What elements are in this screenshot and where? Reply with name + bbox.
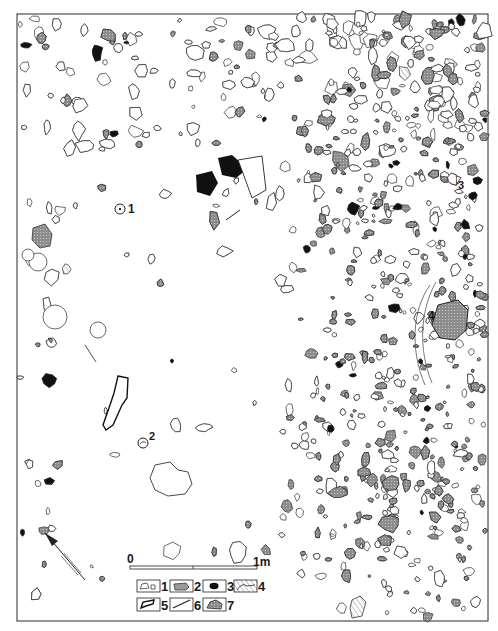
legend-item-6: 6 (170, 598, 201, 613)
grey-stone (372, 65, 380, 82)
label-2: 2 (149, 430, 155, 442)
black-stone (350, 374, 357, 377)
grey-stone (330, 248, 335, 254)
svg-text:1: 1 (161, 579, 168, 594)
outline-stone (286, 404, 293, 417)
grey-stone (353, 410, 356, 413)
outline-stone (383, 510, 388, 515)
grey-stone (310, 241, 316, 246)
grey-stone (433, 526, 437, 529)
legend-item-1: 1 (137, 579, 168, 594)
black-stone (419, 359, 423, 364)
outline-stone (462, 389, 467, 398)
grey-stone (404, 279, 409, 282)
outline-stone (297, 12, 307, 23)
outline-stone (404, 431, 407, 434)
grey-stone (478, 454, 486, 466)
legend-item-7: 7 (203, 598, 234, 613)
grey-stone (369, 358, 374, 363)
round-stone (90, 322, 106, 338)
outline-stone (403, 311, 406, 314)
outline-stone (360, 544, 363, 549)
outline-stone (323, 515, 327, 518)
site-plan: 1 2 3 4 0 1m 1 2 3 (0, 0, 498, 631)
outline-stone (468, 133, 474, 141)
grey-stone (136, 141, 142, 147)
outline-stone (428, 566, 433, 570)
grey-stone (467, 322, 474, 328)
outline-stone (355, 11, 366, 27)
outline-stone (478, 283, 483, 286)
outline-stone (384, 34, 389, 37)
grey-stone (445, 138, 449, 143)
legend-item-5: 5 (137, 598, 168, 613)
outline-stone (380, 39, 387, 46)
grey-stone (303, 422, 307, 425)
grey-stone (306, 144, 312, 152)
grey-stone (425, 489, 431, 494)
svg-text:2: 2 (194, 579, 201, 594)
grey-stone (425, 427, 429, 430)
legend-item-3: 3 (203, 579, 234, 594)
black-stone (171, 359, 174, 363)
grey-stone (378, 250, 381, 257)
outline-stone (413, 375, 418, 381)
label-4: 4 (428, 309, 435, 323)
outline-stone (399, 84, 405, 87)
outline-stone (306, 39, 313, 51)
outline-stone (316, 388, 318, 395)
outline-stone (418, 608, 425, 613)
grey-stone (298, 318, 303, 320)
svg-text:5: 5 (161, 598, 168, 613)
outline-stone (461, 468, 465, 471)
outline-stone (378, 421, 385, 427)
grey-stone (462, 444, 467, 449)
outline-stone (196, 139, 200, 146)
outline-stone (322, 206, 330, 216)
black-stone (328, 425, 334, 432)
outline-stone (427, 461, 434, 475)
outline-stone (447, 344, 450, 348)
outline-stone (408, 59, 413, 67)
outline-stone (424, 339, 427, 342)
outline-stone (384, 494, 388, 499)
round-stone (22, 249, 34, 261)
grey-stone (382, 316, 387, 319)
grey-stone (389, 146, 394, 149)
grey-stone (399, 138, 403, 142)
outline-stone (229, 70, 233, 74)
grey-stone (372, 309, 379, 318)
grey-stone (471, 488, 478, 493)
outline-stone (375, 541, 380, 548)
outline-stone (388, 401, 394, 404)
outline-stone (372, 285, 376, 288)
grey-stone (394, 369, 400, 374)
legend-item-4: 4 (234, 579, 266, 594)
outline-stone (475, 72, 479, 76)
svg-text:7: 7 (227, 598, 234, 613)
svg-text:3: 3 (227, 579, 234, 594)
outline-stone (469, 419, 474, 424)
grey-stone (351, 260, 357, 263)
outline-stone (384, 407, 387, 412)
grey-stone (464, 577, 469, 581)
outline-stone (387, 368, 394, 379)
grey-stone (332, 353, 338, 358)
grey-stone (345, 476, 349, 481)
outline-stone (457, 513, 465, 519)
grey-stone (421, 419, 425, 422)
grey-stone (434, 292, 439, 297)
grey-stone (292, 116, 297, 121)
outline-stone (392, 129, 396, 132)
outline-stone (414, 558, 420, 563)
grey-stone (325, 558, 332, 561)
grey-stone (443, 256, 448, 262)
grey-stone (336, 163, 340, 167)
grey-stone (426, 396, 429, 398)
legend-item-2: 2 (170, 579, 201, 594)
outline-stone (382, 351, 387, 356)
grey-stone (472, 369, 474, 372)
grey-stone (373, 193, 378, 196)
outline-stone (381, 272, 385, 277)
svg-text:4: 4 (258, 579, 266, 594)
